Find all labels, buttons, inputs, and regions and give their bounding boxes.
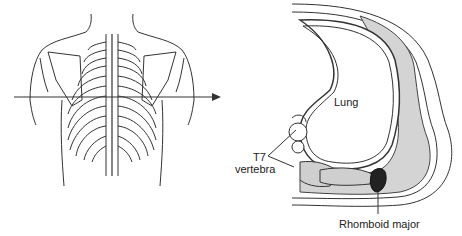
lung-label: Lung [334, 96, 358, 108]
anatomy-diagram [0, 0, 462, 236]
posterior-thorax-illustration [30, 14, 194, 186]
rhomboid-major-label: Rhomboid major [339, 218, 420, 230]
vertebra-label-line2: vertebra [235, 163, 275, 175]
transverse-section-illustration [268, 4, 452, 214]
vertebra-label-line1: T7 [253, 151, 266, 163]
